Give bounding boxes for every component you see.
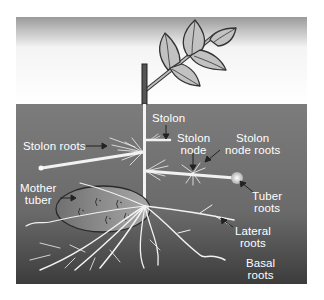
label-stolon-node-roots-line1: Stolon <box>225 132 280 144</box>
label-stolon-node-line2: node <box>177 144 210 156</box>
label-basal-roots-line1: Basal <box>246 257 275 269</box>
label-stolon: Stolon <box>152 112 185 124</box>
label-basal-roots-line2: roots <box>246 269 275 281</box>
label-mother-tuber-line2: tuber <box>20 194 56 206</box>
label-basal-roots: Basal roots <box>246 257 275 281</box>
label-stolon-text: Stolon <box>152 112 185 124</box>
stem-underground <box>143 104 146 206</box>
label-tuber-roots: Tuber roots <box>252 190 282 214</box>
potato-root-diagram: Stolon Stolon node Stolon node roots Sto… <box>0 0 324 300</box>
label-mother-tuber-line1: Mother <box>20 182 56 194</box>
stem-above-ground <box>142 64 147 104</box>
label-stolon-node-roots: Stolon node roots <box>225 132 280 156</box>
label-stolon-node-roots-line2: node roots <box>225 144 280 156</box>
label-stolon-roots: Stolon roots <box>23 140 86 152</box>
label-tuber-roots-line2: roots <box>252 202 282 214</box>
label-stolon-node-line1: Stolon <box>177 132 210 144</box>
label-lateral-roots: Lateral roots <box>235 225 271 249</box>
mother-tuber <box>56 186 150 232</box>
label-stolon-roots-text: Stolon roots <box>23 140 86 152</box>
label-lateral-roots-line1: Lateral <box>235 225 271 237</box>
label-lateral-roots-line2: roots <box>235 237 271 249</box>
label-tuber-roots-line1: Tuber <box>252 190 282 202</box>
label-stolon-node: Stolon node <box>177 132 210 156</box>
label-mother-tuber: Mother tuber <box>20 182 56 206</box>
